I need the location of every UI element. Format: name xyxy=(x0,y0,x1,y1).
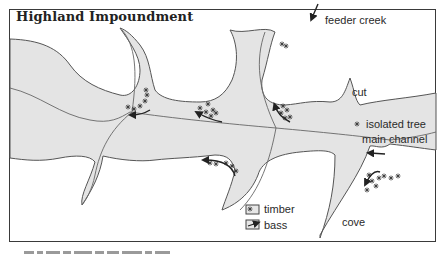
label-feeder-creek: feeder creek xyxy=(325,14,386,26)
legend-label-bass: bass xyxy=(264,219,287,231)
label-isolated-tree: isolated tree xyxy=(366,118,426,130)
label-cove: cove xyxy=(342,216,365,228)
label-cut: cut xyxy=(352,86,367,98)
legend-label-timber: timber xyxy=(264,203,295,215)
map-title: Highland Impoundment xyxy=(16,9,193,24)
label-main-channel: main channel xyxy=(362,133,427,145)
timber-icon xyxy=(246,205,259,214)
caption-cutoff xyxy=(24,251,204,256)
legend-icons xyxy=(246,205,259,229)
